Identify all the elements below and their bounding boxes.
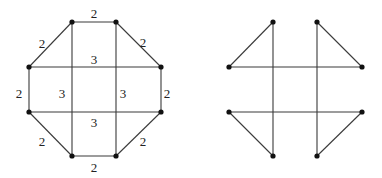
edge-weight-label: 2 bbox=[39, 134, 46, 149]
edge-h-a bbox=[229, 22, 273, 67]
edge-weight-label: 2 bbox=[164, 86, 171, 101]
edge-weight-label: 3 bbox=[120, 86, 127, 101]
edge-weight-label: 2 bbox=[140, 35, 147, 50]
edge-h-a bbox=[29, 22, 72, 67]
vertex-d bbox=[359, 109, 364, 114]
vertex-h bbox=[26, 64, 31, 69]
edge-weight-label: 3 bbox=[91, 115, 98, 130]
edge-weight-label: 2 bbox=[16, 86, 23, 101]
edge-weight-label: 2 bbox=[39, 36, 46, 51]
edge-b-c bbox=[317, 22, 362, 67]
vertex-a bbox=[270, 19, 275, 24]
vertex-e bbox=[314, 153, 319, 158]
vertex-c bbox=[158, 64, 163, 69]
vertex-f bbox=[270, 153, 275, 158]
vertex-g bbox=[226, 109, 231, 114]
vertex-f bbox=[69, 153, 74, 158]
edge-d-e bbox=[116, 112, 161, 156]
vertex-b bbox=[113, 19, 118, 24]
vertex-h bbox=[226, 64, 231, 69]
vertex-c bbox=[359, 64, 364, 69]
edge-weight-label: 2 bbox=[91, 160, 98, 175]
edge-weight-label: 2 bbox=[91, 6, 98, 21]
edge-b-c bbox=[116, 22, 161, 67]
edge-weight-label: 3 bbox=[91, 52, 98, 67]
vertex-d bbox=[158, 109, 163, 114]
spanning-subgraph bbox=[226, 19, 364, 158]
edge-weight-label: 2 bbox=[140, 134, 147, 149]
edge-d-e bbox=[317, 112, 362, 156]
weighted-octagon-graph: 222222223333 bbox=[16, 6, 171, 175]
vertex-g bbox=[26, 109, 31, 114]
vertex-a bbox=[69, 19, 74, 24]
edge-g-f bbox=[229, 112, 273, 156]
vertex-e bbox=[113, 153, 118, 158]
edge-weight-label: 3 bbox=[59, 86, 66, 101]
graph-diagram-canvas: 222222223333 bbox=[0, 0, 382, 178]
edge-f-g bbox=[29, 112, 72, 156]
vertex-b bbox=[314, 19, 319, 24]
